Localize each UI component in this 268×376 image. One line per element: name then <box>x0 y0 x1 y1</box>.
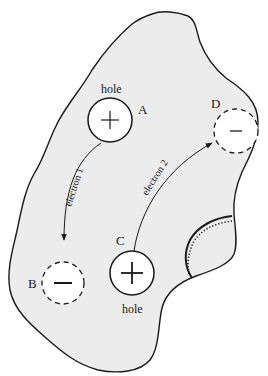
site-a-letter: A <box>138 102 148 117</box>
site-a <box>88 98 132 142</box>
site-c <box>110 251 154 295</box>
hole-c-caption: hole <box>122 302 143 316</box>
site-d <box>214 109 258 153</box>
site-b-letter: B <box>28 276 37 291</box>
material-region <box>9 12 258 372</box>
site-b <box>42 262 84 304</box>
electron-hole-diagram: electron 1 electron 2 hole A D B C hole <box>0 0 268 376</box>
site-d-letter: D <box>211 96 220 111</box>
site-c-letter: C <box>116 233 125 248</box>
hole-a-caption: hole <box>101 82 122 96</box>
